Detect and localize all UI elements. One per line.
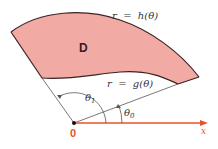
outer-curve-label: r = h(θ) — [112, 10, 158, 21]
x-axis-label: x — [201, 126, 206, 136]
angle-theta1-label: θ1 — [85, 92, 96, 105]
region-label: D — [79, 41, 88, 55]
angle-theta0-label: θ0 — [124, 107, 135, 120]
origin-point — [72, 121, 76, 125]
polar-region-diagram: D r = h(θ) r = g(θ) θ1 θ0 0 x — [0, 0, 218, 149]
origin-label: 0 — [70, 127, 76, 139]
inner-curve-label: r = g(θ) — [107, 78, 153, 89]
angle-arc-theta1 — [58, 93, 106, 123]
ray-theta1 — [42, 78, 74, 123]
angle-arc-theta0 — [119, 106, 122, 123]
arc-arrow-icon — [57, 95, 62, 99]
